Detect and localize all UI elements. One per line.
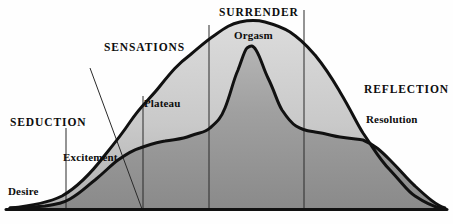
sexual-response-cycle-diagram: SEDUCTION SENSATIONS SURRENDER REFLECTIO… [0,0,453,224]
phase-label-surrender: SURRENDER [219,7,299,19]
stage-label-desire: Desire [8,186,39,197]
stage-label-plateau: Plateau [144,98,181,109]
phase-label-sensations: SENSATIONS [104,42,185,54]
curve-chart-canvas [0,0,453,224]
phase-label-reflection: REFLECTION [364,84,449,96]
stage-label-orgasm: Orgasm [234,30,273,41]
stage-label-resolution: Resolution [366,114,418,125]
stage-label-excitement: Excitement [63,152,118,163]
phase-label-seduction: SEDUCTION [10,117,86,129]
